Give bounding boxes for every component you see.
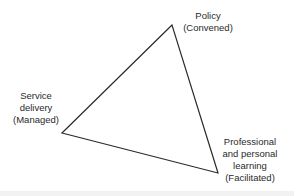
vertex-label-professional-learning: Professional and personal learning (Faci… [216,136,284,184]
policy-mode: (Convened) [176,22,240,34]
bottom-border-band [0,191,294,196]
triangle-diagram: Policy (Convened) Service delivery (Mana… [0,0,294,196]
policy-title: Policy [176,10,240,22]
vertex-label-service-delivery: Service delivery (Managed) [8,90,64,126]
pro-mode: (Facilitated) [216,172,284,184]
service-mode: (Managed) [8,114,64,126]
vertex-label-policy: Policy (Convened) [176,10,240,34]
pro-title-2: and personal [216,148,284,160]
service-title-1: Service [8,90,64,102]
service-title-2: delivery [8,102,64,114]
pro-title-3: learning [216,160,284,172]
pro-title-1: Professional [216,136,284,148]
